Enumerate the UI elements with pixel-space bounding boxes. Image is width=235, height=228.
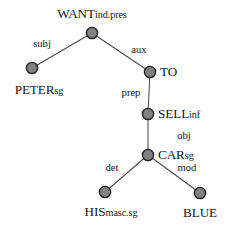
node-label-base-want: WANT bbox=[57, 6, 95, 21]
node-label-blue: BLUE bbox=[183, 206, 217, 219]
edge-label-subj: subj bbox=[33, 39, 51, 50]
node-label-sub-want: ind.pres bbox=[95, 9, 127, 20]
node-label-sub-sell: inf bbox=[189, 109, 200, 120]
edge-label-aux: aux bbox=[131, 45, 146, 56]
node-label-sub-his: masc.sg bbox=[106, 207, 138, 218]
edge-label-obj: obj bbox=[177, 131, 191, 142]
node-label-sell: SELLinf bbox=[158, 107, 200, 120]
node-label-his: HISmasc.sg bbox=[85, 205, 138, 218]
tree-node-sell bbox=[142, 108, 153, 119]
tree-node-to bbox=[144, 66, 155, 77]
edge-label-prep: prep bbox=[122, 88, 141, 99]
tree-edge-car-his bbox=[105, 155, 148, 192]
tree-node-blue bbox=[194, 187, 205, 198]
node-label-base-his: HIS bbox=[85, 204, 106, 219]
tree-node-want bbox=[86, 27, 97, 38]
edge-label-det: det bbox=[106, 163, 119, 174]
node-label-base-peter: PETER bbox=[15, 82, 55, 97]
node-label-peter: PETERsg bbox=[15, 83, 64, 96]
tree-node-peter bbox=[26, 62, 37, 73]
dependency-tree-diagram: WANTind.presPETERsgTOSELLinfCARsgHISmasc… bbox=[0, 0, 235, 228]
node-label-to: TO bbox=[160, 65, 177, 78]
node-label-base-to: TO bbox=[160, 64, 177, 79]
node-label-sub-peter: sg bbox=[54, 85, 63, 96]
edge-label-mod: mod bbox=[178, 163, 197, 174]
node-label-base-blue: BLUE bbox=[183, 205, 217, 220]
node-label-sub-car: sg bbox=[185, 150, 194, 161]
node-label-car: CARsg bbox=[158, 148, 194, 161]
node-label-base-sell: SELL bbox=[158, 106, 189, 121]
node-label-base-car: CAR bbox=[158, 147, 185, 162]
node-label-want: WANTind.pres bbox=[57, 7, 126, 20]
tree-edge-to-sell bbox=[148, 72, 150, 114]
tree-node-his bbox=[99, 186, 110, 197]
tree-node-car bbox=[142, 149, 153, 160]
